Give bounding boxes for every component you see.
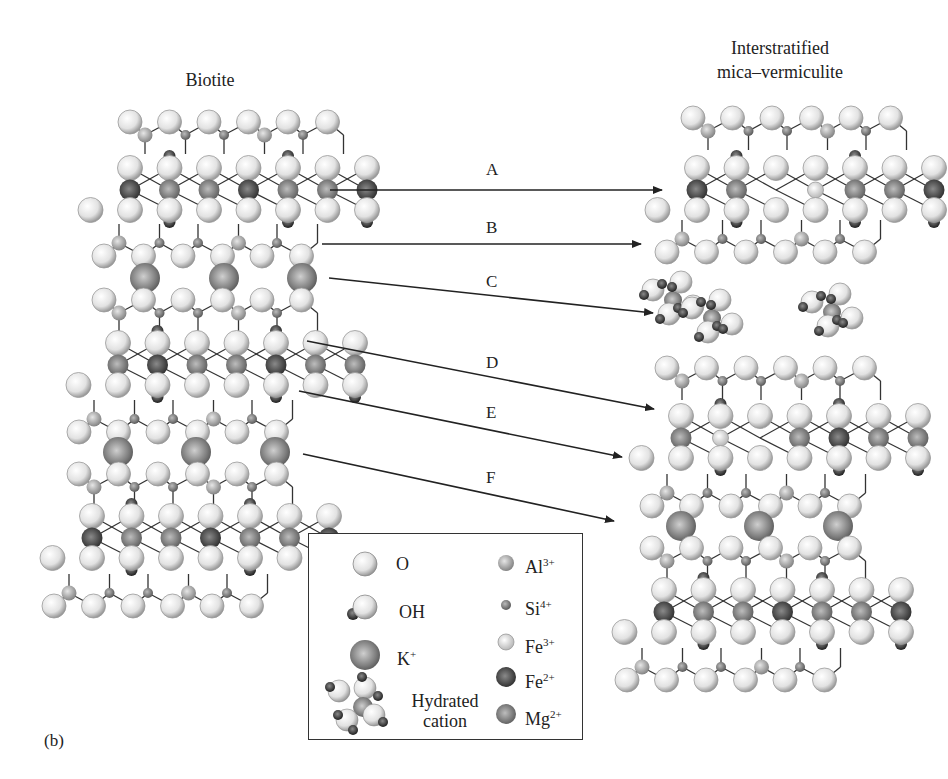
oxygen-atom bbox=[629, 446, 654, 471]
legend-label-oh: OH bbox=[399, 602, 425, 622]
arrow-label-a: A bbox=[486, 160, 498, 180]
oxygen-atom bbox=[652, 578, 677, 603]
silicon-atom bbox=[744, 126, 754, 136]
oxygen-atom bbox=[640, 494, 664, 518]
oxygen-atom bbox=[612, 620, 637, 645]
aluminum-atom bbox=[660, 554, 675, 569]
legend-magnesium-icon bbox=[496, 704, 516, 724]
legend-oxygen-icon bbox=[353, 552, 377, 576]
oxygen-atom bbox=[146, 420, 170, 444]
water-hydrogen bbox=[667, 282, 677, 292]
oxygen-atom bbox=[615, 668, 639, 692]
oxygen-atom bbox=[118, 198, 143, 223]
oxygen-atom bbox=[853, 356, 877, 380]
oxygen-atom bbox=[145, 331, 170, 356]
oxygen-atom bbox=[719, 536, 743, 560]
aluminum-atom bbox=[675, 232, 690, 247]
oxygen-atom bbox=[798, 536, 822, 560]
oxygen-atom bbox=[118, 156, 143, 181]
aluminum-atom bbox=[701, 124, 716, 139]
oxygen-atom bbox=[66, 373, 91, 398]
water-hydrogen bbox=[657, 279, 667, 289]
aluminum-atom bbox=[87, 412, 102, 427]
oxygen-atom bbox=[774, 356, 798, 380]
silicon-atom bbox=[143, 588, 153, 598]
oxygen-atom bbox=[250, 288, 274, 312]
oxygen-atom bbox=[813, 240, 837, 264]
aluminum-atom bbox=[181, 586, 196, 601]
oxygen-atom bbox=[157, 198, 182, 223]
silicon-atom bbox=[716, 662, 726, 672]
oxygen-atom bbox=[724, 198, 749, 223]
oxygen-atom bbox=[225, 420, 249, 444]
arrow-label-e: E bbox=[486, 403, 496, 423]
oxygen-atom bbox=[106, 373, 131, 398]
oxygen-atom bbox=[315, 198, 340, 223]
oxygen-atom bbox=[238, 504, 263, 529]
water-hydrogen bbox=[655, 314, 665, 324]
legend-hydroxyl-icon bbox=[347, 595, 377, 620]
oxygen-atom bbox=[734, 356, 758, 380]
biotite-title: Biotite bbox=[150, 68, 270, 92]
oxygen-atom bbox=[655, 668, 679, 692]
oxygen-atom bbox=[236, 156, 261, 181]
oxygen-atom bbox=[803, 156, 828, 181]
legend-label-al-text: Al bbox=[525, 557, 543, 577]
silicon-atom bbox=[222, 588, 232, 598]
silicon-atom bbox=[756, 376, 766, 386]
oxygen-atom bbox=[731, 620, 756, 645]
silicon-atom bbox=[795, 662, 805, 672]
oxygen-atom bbox=[685, 198, 710, 223]
oxygen-atom bbox=[119, 546, 144, 571]
oxygen-atom bbox=[197, 156, 222, 181]
oxygen-atom bbox=[224, 331, 249, 356]
oxygen-atom bbox=[197, 110, 221, 134]
oxygen-atom bbox=[158, 110, 182, 134]
mica-vermiculite-title-line1: Interstratified bbox=[680, 36, 880, 60]
oxygen-atom bbox=[343, 373, 368, 398]
legend-aluminum-icon bbox=[498, 555, 514, 571]
aluminum-atom bbox=[138, 128, 153, 143]
oxygen-atom bbox=[121, 594, 145, 618]
legend-label-k-sup: + bbox=[410, 648, 416, 660]
oxygen-atom bbox=[843, 156, 868, 181]
oxygen-atom bbox=[827, 446, 852, 471]
oxygen-atom bbox=[719, 494, 743, 518]
oxygen-atom bbox=[655, 356, 679, 380]
silicon-atom bbox=[193, 308, 203, 318]
oxygen-atom bbox=[764, 156, 789, 181]
silicon-atom bbox=[181, 130, 191, 140]
oxygen-atom bbox=[80, 546, 105, 571]
oxygen-atom bbox=[198, 546, 223, 571]
aluminum-atom bbox=[257, 128, 272, 143]
oxygen-atom bbox=[760, 106, 784, 130]
silicon-atom bbox=[168, 482, 178, 492]
oxygen-atom bbox=[290, 288, 314, 312]
aluminum-atom bbox=[231, 306, 246, 321]
silicon-atom bbox=[272, 238, 282, 248]
oxygen-atom bbox=[185, 373, 210, 398]
oxygen-atom bbox=[922, 198, 947, 223]
oxygen-atom bbox=[211, 288, 235, 312]
water-hydrogen bbox=[639, 290, 649, 300]
legend-label-k: K+ bbox=[397, 644, 416, 669]
oxygen-atom bbox=[67, 462, 91, 486]
oxygen-atom bbox=[866, 446, 891, 471]
oxygen-atom bbox=[889, 578, 914, 603]
oxygen-atom bbox=[119, 504, 144, 529]
aluminum-atom bbox=[794, 374, 809, 389]
oxygen-atom bbox=[774, 240, 798, 264]
oxygen-atom bbox=[798, 494, 822, 518]
water-hydrogen bbox=[798, 302, 808, 312]
silicon-atom bbox=[820, 556, 830, 566]
oxygen-atom bbox=[764, 198, 789, 223]
oxygen-atom bbox=[813, 668, 837, 692]
oxygen-atom bbox=[691, 578, 716, 603]
oxygen-atom bbox=[238, 546, 263, 571]
legend-label-fe3-sup: 3+ bbox=[543, 636, 555, 648]
oxygen-atom bbox=[161, 594, 185, 618]
silicon-atom bbox=[130, 482, 140, 492]
arrow-label-d: D bbox=[486, 353, 498, 373]
oxygen-atom bbox=[171, 288, 195, 312]
aluminum-atom bbox=[675, 374, 690, 389]
